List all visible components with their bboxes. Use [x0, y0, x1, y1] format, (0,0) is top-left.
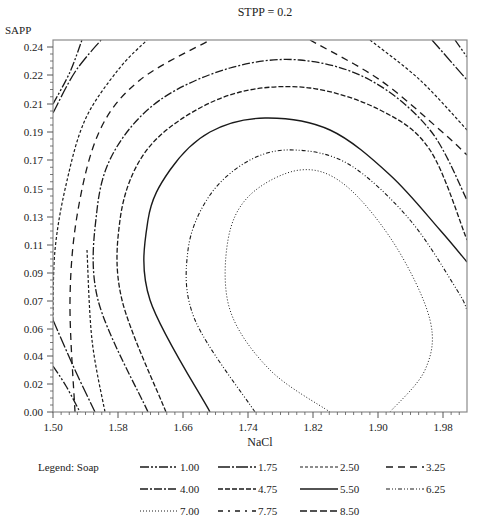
- legend-label: 1.00: [180, 461, 200, 473]
- legend-label: 1.75: [258, 461, 278, 473]
- legend-label: 4.75: [258, 483, 278, 495]
- x-tick-label: 1.98: [433, 421, 453, 433]
- contour-line-1-75: [53, 40, 101, 113]
- contour-line-3-25: [70, 40, 210, 412]
- contour-line-1: [53, 40, 82, 104]
- contour-lines: [53, 40, 467, 412]
- y-tick-label: 0.11: [24, 239, 43, 251]
- legend-label: 7.00: [180, 505, 200, 517]
- x-axis-label: NaCl: [247, 435, 273, 449]
- y-tick-label: 0.13: [24, 211, 44, 223]
- x-tick-label: 1.82: [303, 421, 322, 433]
- contour-line-4-75: [117, 87, 467, 412]
- x-tick-label: 1.66: [173, 421, 193, 433]
- chart-title: STPP = 0.2: [238, 5, 293, 19]
- contour-line-2-5: [53, 40, 147, 320]
- y-tick-label: 0.07: [24, 295, 44, 307]
- contour-line-5-5: [144, 118, 467, 412]
- y-axis-label: SAPP: [5, 24, 31, 36]
- contour-chart: STPP = 0.2 SAPP 0.240.220.210.190.170.15…: [0, 0, 480, 517]
- contour-line-7: [225, 170, 432, 412]
- x-tick-label: 1.50: [43, 421, 63, 433]
- legend: Legend: Soap 1.001.752.503.254.004.755.5…: [38, 461, 446, 517]
- legend-label: 6.25: [426, 483, 446, 495]
- contour-line-1: [455, 40, 467, 57]
- contour-line-3-25: [310, 40, 467, 155]
- y-tick-label: 0.04: [24, 350, 44, 362]
- y-tick-label: 0.22: [24, 69, 43, 81]
- contour-line-2-5: [87, 250, 105, 412]
- x-axis-ticks: 1.501.581.661.741.821.901.98: [43, 412, 459, 433]
- legend-label: 4.00: [180, 483, 200, 495]
- x-tick-label: 1.90: [368, 421, 388, 433]
- y-tick-label: 0.09: [24, 267, 44, 279]
- contour-line-1-75: [432, 40, 467, 80]
- y-tick-label: 0.21: [24, 98, 43, 110]
- y-tick-label: 0.17: [24, 154, 44, 166]
- legend-label: 3.25: [426, 461, 446, 473]
- y-tick-label: 0.06: [24, 323, 44, 335]
- y-tick-label: 0.19: [24, 126, 44, 138]
- y-axis-ticks: 0.240.220.210.190.170.150.130.110.090.07…: [24, 41, 53, 418]
- y-tick-label: 0.00: [24, 406, 44, 418]
- contour-line-6-25: [186, 150, 467, 412]
- y-tick-label: 0.24: [24, 41, 44, 53]
- legend-label: 8.50: [340, 505, 360, 517]
- legend-title: Legend: Soap: [38, 461, 99, 473]
- x-tick-label: 1.58: [108, 421, 128, 433]
- legend-label: 2.50: [340, 461, 360, 473]
- x-tick-label: 1.74: [238, 421, 258, 433]
- legend-label: 7.75: [258, 505, 278, 517]
- legend-label: 5.50: [340, 483, 360, 495]
- plot-frame: [53, 40, 467, 412]
- y-tick-label: 0.15: [24, 183, 44, 195]
- y-tick-label: 0.02: [24, 378, 43, 390]
- contour-line-4: [93, 59, 467, 412]
